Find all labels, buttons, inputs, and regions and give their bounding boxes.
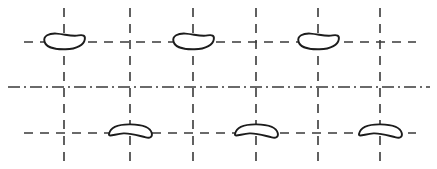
bean-top-1 — [44, 34, 85, 50]
drawing-background — [0, 0, 437, 169]
bean-top-2 — [173, 34, 214, 50]
bean-top-3 — [298, 34, 339, 50]
technical-line-drawing — [0, 0, 437, 169]
figure-canvas — [0, 0, 437, 169]
